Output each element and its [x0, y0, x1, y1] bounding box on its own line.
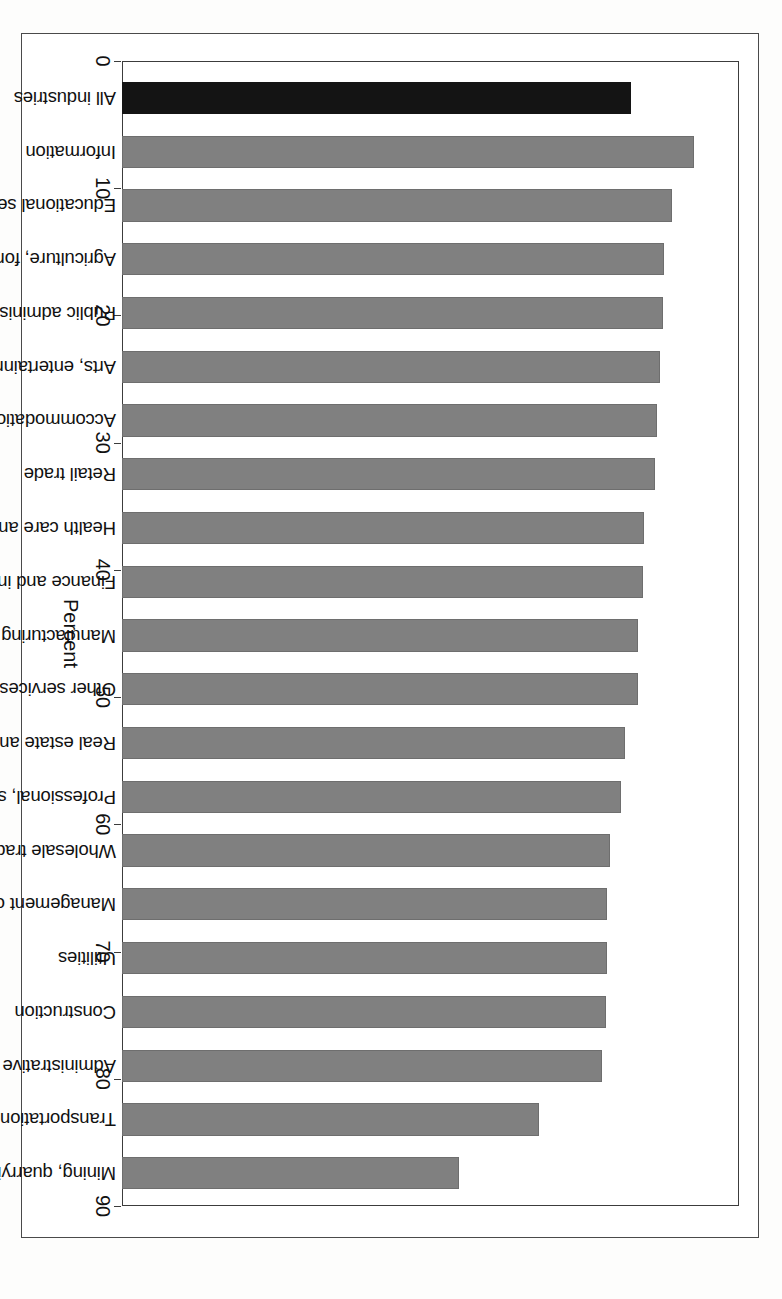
- bar-slot: [122, 877, 739, 931]
- category-label: Professional, scientific, and technical …: [0, 786, 116, 808]
- bar: [122, 834, 610, 866]
- category-label: Administrative and waste services: [0, 1055, 116, 1077]
- category-slot: Other services (except public administra…: [0, 662, 122, 716]
- category-label: Arts, entertainment, and recreation: [0, 356, 116, 378]
- category-slot: Retail trade: [0, 447, 122, 501]
- category-label: Retail trade: [24, 463, 116, 485]
- bar-slot: [122, 232, 739, 286]
- category-label: Accommodation and food services: [0, 409, 116, 431]
- category-slot: Transportation and warehousing: [0, 1093, 122, 1147]
- bar: [122, 404, 657, 436]
- category-slot: Professional, scientific, and technical …: [0, 770, 122, 824]
- bar: [122, 1157, 459, 1189]
- bar: [122, 888, 607, 920]
- bar: [122, 297, 663, 329]
- category-label: Manufacturing: [1, 625, 116, 647]
- bar-slot: [122, 985, 739, 1039]
- category-label: Public administration: [0, 302, 116, 324]
- bar-slot: [122, 501, 739, 555]
- bar: [122, 781, 621, 813]
- category-label: Other services (except public administra…: [0, 678, 116, 700]
- category-slot: Management of companies and enterprises: [0, 877, 122, 931]
- category-slot: Information: [0, 125, 122, 179]
- category-label: Transportation and warehousing: [0, 1108, 116, 1130]
- category-label: Health care and social assistance: [0, 517, 116, 539]
- bar: [122, 243, 664, 275]
- category-slot: Real estate and rental and leasing: [0, 716, 122, 770]
- bar: [122, 512, 644, 544]
- category-label: Utilities: [58, 947, 116, 969]
- chart-page: Percent 0102030405060708090 All industri…: [0, 0, 782, 1299]
- category-slot: Utilities: [0, 931, 122, 985]
- bar-chart: Percent 0102030405060708090 All industri…: [122, 61, 739, 1206]
- category-label: Construction: [15, 1001, 116, 1023]
- bar-slot: [122, 609, 739, 663]
- bar: [122, 136, 694, 168]
- category-slot: Wholesale trade: [0, 824, 122, 878]
- category-slot: Administrative and waste services: [0, 1039, 122, 1093]
- category-slot: Mining, quarrying, and oil and gas extra…: [0, 1146, 122, 1200]
- bar-slot: [122, 125, 739, 179]
- bar-slot: [122, 824, 739, 878]
- bar-slot: [122, 340, 739, 394]
- bar: [122, 619, 638, 651]
- bar-slot: [122, 1039, 739, 1093]
- category-slot: Agriculture, forestry, fishing and hunti…: [0, 232, 122, 286]
- category-label: Management of companies and enterprises: [0, 893, 116, 915]
- bar: [122, 942, 607, 974]
- bar: [122, 189, 673, 221]
- bar-slot: [122, 770, 739, 824]
- bar-series: [122, 61, 739, 1206]
- category-slot: Accommodation and food services: [0, 394, 122, 448]
- category-slot: Manufacturing: [0, 609, 122, 663]
- category-label: Wholesale trade: [0, 840, 116, 862]
- bar-slot: [122, 662, 739, 716]
- category-slot: Health care and social assistance: [0, 501, 122, 555]
- bar-slot: [122, 1146, 739, 1200]
- bar: [122, 1103, 539, 1135]
- bar: [122, 458, 655, 490]
- category-slot: Construction: [0, 985, 122, 1039]
- category-label: Real estate and rental and leasing: [0, 732, 116, 754]
- rotated-chart-stage: Percent 0102030405060708090 All industri…: [0, 0, 782, 1299]
- bar: [122, 82, 631, 114]
- category-label: All industries: [14, 87, 116, 109]
- category-slot: Arts, entertainment, and recreation: [0, 340, 122, 394]
- bar-slot: [122, 394, 739, 448]
- bar-slot: [122, 286, 739, 340]
- category-slot: Public administration: [0, 286, 122, 340]
- bar: [122, 566, 643, 598]
- bar-slot: [122, 447, 739, 501]
- category-slot: Finance and insurance: [0, 555, 122, 609]
- axis-tick: [114, 1206, 121, 1207]
- bar: [122, 673, 638, 705]
- bar-slot: [122, 555, 739, 609]
- bar: [122, 351, 660, 383]
- bar-slot: [122, 931, 739, 985]
- category-label: Mining, quarrying, and oil and gas extra…: [0, 1162, 116, 1184]
- category-slot: All industries: [0, 71, 122, 125]
- bar-slot: [122, 716, 739, 770]
- bar: [122, 996, 606, 1028]
- bar-slot: [122, 179, 739, 233]
- category-label: Finance and insurance: [0, 571, 116, 593]
- category-label: Educational services: [0, 194, 116, 216]
- category-axis-labels: All industriesInformationEducational ser…: [0, 61, 122, 1206]
- bar: [122, 1050, 602, 1082]
- category-slot: Educational services: [0, 179, 122, 233]
- category-label: Agriculture, forestry, fishing and hunti…: [0, 248, 116, 270]
- bar: [122, 727, 625, 759]
- bar-slot: [122, 1093, 739, 1147]
- bar-slot: [122, 71, 739, 125]
- category-label: Information: [26, 141, 116, 163]
